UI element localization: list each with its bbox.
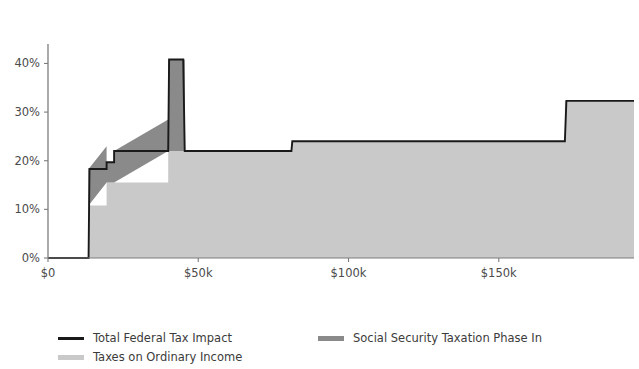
- tax-impact-chart: 0%10%20%30%40% $0$50k$100k$150k Total Fe…: [0, 0, 639, 369]
- x-tick-label-2: $100k: [331, 266, 367, 280]
- legend-swatch-phase-in-icon: [318, 336, 344, 341]
- legend-label-total-federal-tax-impact: Total Federal Tax Impact: [93, 332, 232, 345]
- y-tick-label-1: 10%: [14, 202, 40, 216]
- x-tick-label-1: $50k: [184, 266, 213, 280]
- legend-swatch-ordinary-income-icon: [58, 355, 84, 360]
- chart-legend: Total Federal Tax Impact Social Security…: [58, 329, 618, 369]
- legend-item-taxes-on-ordinary-income: Taxes on Ordinary Income: [58, 348, 318, 367]
- y-tick-label-2: 20%: [14, 154, 40, 168]
- y-axis-ticks: 0%10%20%30%40%: [14, 56, 48, 265]
- x-tick-label-3: $150k: [481, 266, 517, 280]
- x-tick-label-0: $0: [41, 266, 56, 280]
- legend-row-2: Taxes on Ordinary Income: [58, 348, 618, 367]
- chart-plot-area: 0%10%20%30%40% $0$50k$100k$150k: [0, 0, 639, 369]
- legend-item-social-security-phase-in: Social Security Taxation Phase In: [318, 329, 618, 348]
- legend-swatch-line-icon: [58, 337, 84, 340]
- legend-label-social-security-phase-in: Social Security Taxation Phase In: [353, 332, 542, 345]
- legend-row-1: Total Federal Tax Impact Social Security…: [58, 329, 618, 348]
- legend-label-taxes-on-ordinary-income: Taxes on Ordinary Income: [93, 351, 242, 364]
- area-taxes-on-ordinary-income: [48, 101, 634, 258]
- y-tick-label-3: 30%: [14, 105, 40, 119]
- legend-item-total-federal-tax-impact: Total Federal Tax Impact: [58, 329, 318, 348]
- y-tick-label-0: 0%: [22, 251, 40, 265]
- y-tick-label-4: 40%: [14, 56, 40, 70]
- x-axis-ticks: $0$50k$100k$150k: [41, 258, 517, 280]
